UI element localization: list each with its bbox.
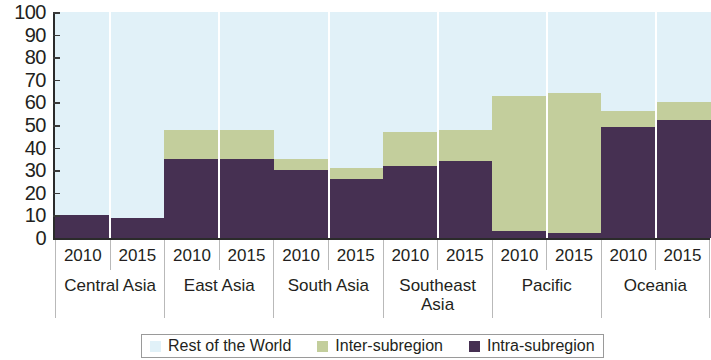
y-tick-label: 40: [25, 138, 46, 158]
bar-column[interactable]: [330, 12, 384, 238]
y-axis: 0102030405060708090100: [0, 0, 54, 246]
bar-segment-rest-of-the-world: [55, 12, 109, 215]
bar-segment-inter-subregion: [548, 93, 602, 233]
category-label[interactable]: Central Asia: [56, 270, 164, 318]
year-label-row: 20102015: [165, 240, 273, 270]
bar-segment-intra-subregion: [548, 233, 602, 238]
bar-segment-intra-subregion: [111, 218, 165, 238]
y-tick-mark: [53, 215, 60, 217]
year-label-row: 20102015: [384, 240, 492, 270]
y-tick-label: 90: [25, 25, 46, 45]
category-group: 20102015South Asia: [273, 240, 382, 318]
legend-item[interactable]: Inter-subregion: [317, 338, 443, 354]
y-tick-label: 10: [25, 205, 46, 225]
y-tick-mark: [53, 12, 60, 14]
bar-segment-intra-subregion: [383, 166, 437, 238]
bar-segment-rest-of-the-world: [330, 12, 384, 168]
bar-segment-rest-of-the-world: [601, 12, 655, 111]
y-tick-label: 30: [25, 160, 46, 180]
chart-legend: Rest of the WorldInter-subregionIntra-su…: [141, 334, 604, 358]
bar-segment-inter-subregion: [492, 96, 546, 232]
bar-segment-inter-subregion: [274, 159, 328, 170]
year-label[interactable]: 2015: [110, 240, 165, 270]
year-label[interactable]: 2015: [328, 240, 383, 270]
legend-label: Rest of the World: [168, 338, 291, 354]
y-tick-mark: [53, 102, 60, 104]
bar-segment-rest-of-the-world: [274, 12, 328, 159]
legend-label: Inter-subregion: [335, 338, 443, 354]
category-group: 20102015Central Asia: [55, 240, 164, 318]
bar-segment-inter-subregion: [601, 111, 655, 127]
bar-segment-inter-subregion: [220, 130, 274, 159]
bar-segment-rest-of-the-world: [164, 12, 218, 130]
category-label[interactable]: Oceania: [602, 270, 709, 318]
year-label[interactable]: 2010: [493, 240, 547, 270]
bar-segment-intra-subregion: [55, 215, 109, 238]
year-label[interactable]: 2015: [546, 240, 601, 270]
year-label[interactable]: 2015: [437, 240, 492, 270]
year-label-row: 20102015: [602, 240, 709, 270]
bar-segment-intra-subregion: [330, 179, 384, 238]
bar-column[interactable]: [601, 12, 655, 238]
bar-column[interactable]: [111, 12, 165, 238]
category-group: 20102015Pacific: [492, 240, 601, 318]
year-label[interactable]: 2010: [602, 240, 655, 270]
year-label[interactable]: 2010: [384, 240, 438, 270]
bar-segment-inter-subregion: [657, 102, 711, 120]
plot-area: [55, 12, 710, 238]
bar-segment-rest-of-the-world: [492, 12, 546, 96]
y-tick-mark: [53, 148, 60, 150]
bar-segment-intra-subregion: [220, 159, 274, 238]
bar-segment-inter-subregion: [164, 130, 218, 159]
bar-segment-intra-subregion: [657, 120, 711, 238]
category-label[interactable]: East Asia: [165, 270, 273, 318]
legend-swatch-icon: [150, 341, 161, 352]
y-tick-label: 80: [25, 47, 46, 67]
bar-column[interactable]: [548, 12, 602, 238]
bar-column[interactable]: [220, 12, 274, 238]
bar-column[interactable]: [383, 12, 437, 238]
bar-segment-intra-subregion: [601, 127, 655, 238]
bar-segment-intra-subregion: [492, 231, 546, 238]
bar-column[interactable]: [492, 12, 546, 238]
category-group: 20102015Oceania: [601, 240, 710, 318]
bar-column[interactable]: [657, 12, 711, 238]
bar-segment-rest-of-the-world: [548, 12, 602, 93]
y-tick-mark: [53, 193, 60, 195]
year-label-row: 20102015: [274, 240, 382, 270]
legend-label: Intra-subregion: [487, 338, 595, 354]
bar-column[interactable]: [164, 12, 218, 238]
year-label[interactable]: 2015: [219, 240, 274, 270]
year-label[interactable]: 2010: [165, 240, 219, 270]
bar-segment-intra-subregion: [274, 170, 328, 238]
category-axis-labels: 20102015Central Asia20102015East Asia201…: [55, 240, 710, 318]
bar-segment-rest-of-the-world: [111, 12, 165, 218]
legend-item[interactable]: Intra-subregion: [469, 338, 595, 354]
y-tick-mark: [53, 35, 60, 37]
bar-column[interactable]: [55, 12, 109, 238]
bar-segment-inter-subregion: [439, 130, 493, 162]
y-tick-mark: [53, 80, 60, 82]
bar-segment-rest-of-the-world: [383, 12, 437, 132]
bar-column[interactable]: [274, 12, 328, 238]
y-tick-label: 70: [25, 70, 46, 90]
bar-segment-rest-of-the-world: [220, 12, 274, 130]
category-label[interactable]: Southeast Asia: [403, 270, 473, 318]
legend-swatch-icon: [317, 341, 328, 352]
year-label-row: 20102015: [56, 240, 164, 270]
y-tick-mark: [53, 57, 60, 59]
category-label[interactable]: South Asia: [274, 270, 382, 318]
bar-column[interactable]: [439, 12, 493, 238]
y-tick-label: 100: [14, 2, 46, 22]
y-tick-label: 60: [25, 92, 46, 112]
legend-item[interactable]: Rest of the World: [150, 338, 291, 354]
y-tick-mark: [53, 125, 60, 127]
y-tick-label: 50: [25, 115, 46, 135]
category-label[interactable]: Pacific: [493, 270, 601, 318]
year-label[interactable]: 2015: [655, 240, 709, 270]
bar-segment-inter-subregion: [383, 132, 437, 166]
year-label[interactable]: 2010: [274, 240, 328, 270]
y-tick-mark: [53, 170, 60, 172]
year-label[interactable]: 2010: [56, 240, 110, 270]
